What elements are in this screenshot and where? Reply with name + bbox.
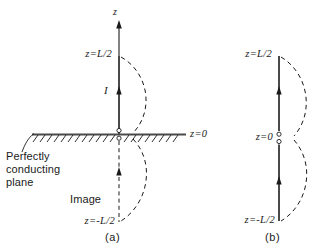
panel-b-upper-arc <box>281 57 306 136</box>
panel-a-plane-hatching <box>33 135 178 142</box>
panel-b-tag: (b) <box>265 231 280 243</box>
panel-a-pattern-arcs <box>121 57 146 221</box>
panel-a-image-label: Image <box>70 193 101 205</box>
panel-a-current-label: I <box>104 84 108 96</box>
panel-b-pattern-arcs <box>281 57 307 221</box>
panel-b-upper-arm <box>276 56 281 131</box>
panel-a-z-axis <box>116 20 122 56</box>
panel-a-top-coordinate-label: z=L/2 <box>58 48 112 60</box>
panel-a-tag: (a) <box>105 231 120 243</box>
panel-a-upper-arc <box>121 57 146 133</box>
panel-a-plane-caption-line1: Perfectly <box>6 150 50 162</box>
panel-b-top-coordinate-label: z=L/2 <box>218 48 272 60</box>
panel-b-bottom-coordinate-label: z=-L/2 <box>216 214 275 226</box>
panel-a-plane-coordinate-label: z=0 <box>190 128 207 140</box>
panel-a-plane-caption-line2: conducting <box>6 163 60 175</box>
panel-b-feed-coordinate-label: z=0 <box>233 131 273 143</box>
panel-b-lower-arm <box>276 145 281 222</box>
panel-b-lower-arc <box>281 140 307 221</box>
panel-b-upper-current-arrow <box>276 86 281 95</box>
figure-drawing <box>0 0 319 250</box>
panel-a-lower-arc <box>121 139 146 221</box>
panel-a-plane-caption-line3: plane <box>6 176 33 188</box>
panel-a-image-current-arrow <box>116 167 121 176</box>
panel-b-feed-terminals <box>277 132 281 144</box>
panel-a-bottom-coordinate-label: z=-L/2 <box>56 215 115 227</box>
panel-a-image-antenna <box>116 141 121 222</box>
panel-a-current-arrow <box>116 86 121 95</box>
figure-container: z z=L/2 I z=0 Perfectly conducting plane… <box>0 0 319 250</box>
panel-a-real-antenna <box>116 56 121 134</box>
panel-a-axis-label: z <box>113 6 117 17</box>
panel-b-lower-current-arrow <box>276 176 281 185</box>
